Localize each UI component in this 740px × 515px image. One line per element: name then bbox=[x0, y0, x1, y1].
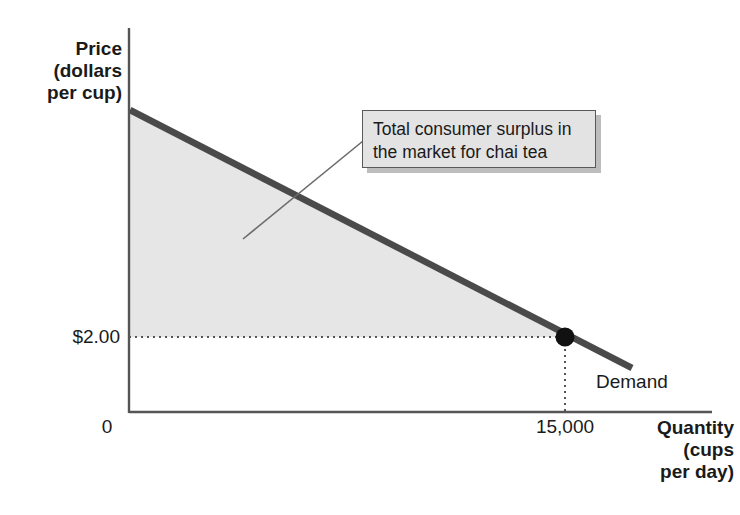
consumer-surplus-callout-text: Total consumer surplus inthe market for … bbox=[373, 118, 591, 165]
y-axis-tick-label-price: $2.00 bbox=[28, 326, 120, 348]
x-axis-title-line-1: Quantity bbox=[657, 417, 734, 438]
x-axis-origin-label: 0 bbox=[92, 416, 122, 438]
x-axis-tick-label-quantity: 15,000 bbox=[510, 416, 620, 438]
y-axis-title-line-2: (dollars bbox=[53, 60, 122, 81]
x-axis-title-line-3: per day) bbox=[660, 461, 734, 482]
y-axis-title-line-1: Price bbox=[76, 38, 122, 59]
chart-canvas: Price(dollarsper cup) Quantity(cupsper d… bbox=[0, 0, 740, 515]
consumer-surplus-callout-box: Total consumer surplus inthe market for … bbox=[362, 110, 596, 168]
x-axis-title: Quantity(cupsper day) bbox=[600, 417, 734, 483]
y-axis-title: Price(dollarsper cup) bbox=[0, 38, 122, 104]
x-axis-title-line-2: (cups bbox=[683, 439, 734, 460]
demand-curve-label: Demand bbox=[596, 371, 668, 393]
y-axis-title-line-3: per cup) bbox=[47, 82, 122, 103]
callout-text-line-2: the market for chai tea bbox=[373, 142, 547, 162]
callout-text-line-1: Total consumer surplus in bbox=[373, 119, 571, 139]
equilibrium-point-marker bbox=[556, 328, 575, 347]
